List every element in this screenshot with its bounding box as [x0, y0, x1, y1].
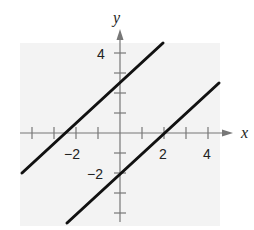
x-tick-label-neg2: −2: [64, 146, 80, 162]
x-axis-label: x: [240, 124, 248, 141]
y-axis-label: y: [111, 9, 121, 27]
chart: x y −2 2 4 4 −2: [0, 0, 254, 230]
x-tick-label-2: 2: [159, 146, 167, 162]
y-axis-arrow-icon: [117, 29, 124, 40]
x-axis-arrow-icon: [222, 130, 233, 137]
y-tick-label-neg2: −2: [87, 166, 103, 182]
y-tick-label-4: 4: [97, 46, 105, 62]
x-tick-label-4: 4: [203, 146, 211, 162]
